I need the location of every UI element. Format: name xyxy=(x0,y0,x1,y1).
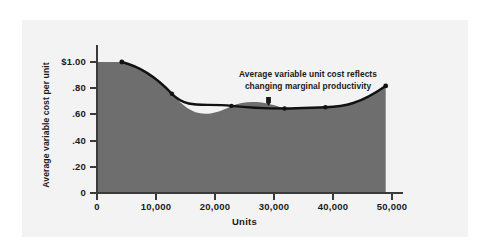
x-axis-line xyxy=(96,192,403,194)
y-tick-label: .40 xyxy=(26,135,86,146)
average-variable-cost-curve xyxy=(0,0,490,250)
x-tick xyxy=(273,193,275,200)
y-tick xyxy=(90,113,97,115)
x-tick xyxy=(332,193,334,200)
x-tick-label: 10,000 xyxy=(126,201,186,212)
x-axis-title: Units xyxy=(97,216,392,227)
x-tick xyxy=(96,193,98,200)
y-tick xyxy=(90,166,97,168)
data-point-marker xyxy=(229,104,233,108)
data-point-marker xyxy=(170,92,174,96)
x-tick xyxy=(155,193,157,200)
y-tick xyxy=(90,87,97,89)
x-tick-label: 30,000 xyxy=(244,201,304,212)
y-axis-line xyxy=(96,45,98,194)
annotation-line-2: changing marginal productivity xyxy=(218,81,398,93)
data-point-marker xyxy=(323,105,327,109)
y-axis-title: Average variable cost per unit xyxy=(41,55,51,195)
figure: 0 .20 .40 .60 .80 $1.00 0 10,000 20,000 … xyxy=(0,0,490,250)
x-tick xyxy=(391,193,393,200)
y-tick xyxy=(90,61,97,63)
y-tick xyxy=(90,140,97,142)
y-tick-label: .60 xyxy=(26,108,86,119)
plot-area: 0 .20 .40 .60 .80 $1.00 0 10,000 20,000 … xyxy=(0,0,490,250)
data-point-marker xyxy=(119,60,124,65)
annotation-line-1: Average variable unit cost reflects xyxy=(218,69,398,81)
y-tick-label: $1.00 xyxy=(26,56,86,67)
x-tick-label: 50,000 xyxy=(362,201,422,212)
y-tick-label: .80 xyxy=(26,82,86,93)
y-tick-label: 0 xyxy=(26,187,86,198)
y-tick-label: .20 xyxy=(26,161,86,172)
data-point-marker xyxy=(282,106,286,110)
x-tick-label: 40,000 xyxy=(303,201,363,212)
x-tick xyxy=(214,193,216,200)
chart-annotation: Average variable unit cost reflects chan… xyxy=(218,69,398,92)
x-tick-label: 0 xyxy=(67,201,127,212)
x-tick-label: 20,000 xyxy=(185,201,245,212)
down-arrow-icon xyxy=(265,97,272,106)
